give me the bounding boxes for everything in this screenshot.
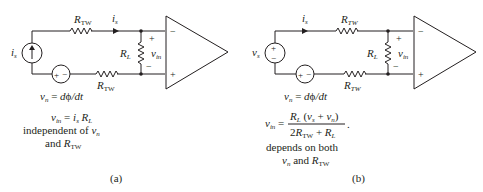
svg-text:vn = dϕ/dt: vn = dϕ/dt bbox=[40, 90, 84, 104]
svg-text:vin: vin bbox=[151, 47, 162, 61]
svg-text:vin = is RL: vin = is RL bbox=[51, 111, 92, 125]
svg-text:+: + bbox=[54, 70, 59, 80]
svg-text:independent of vn: independent of vn bbox=[23, 124, 100, 138]
svg-text:+: + bbox=[149, 33, 155, 44]
resistor-rtw-top-a bbox=[70, 28, 92, 34]
svg-text:.: . bbox=[347, 118, 350, 130]
panel-a-label: (a) bbox=[110, 172, 123, 185]
svg-text:+: + bbox=[418, 69, 424, 80]
svg-text:−: − bbox=[418, 26, 424, 37]
svg-text:RTW: RTW bbox=[96, 79, 115, 93]
svg-text:vs: vs bbox=[252, 46, 260, 60]
svg-text:−: − bbox=[271, 53, 276, 63]
resistor-rl-b bbox=[385, 42, 391, 64]
svg-text:−: − bbox=[146, 61, 152, 72]
resistor-rl-a bbox=[138, 42, 144, 64]
panel-b-circuit: + − + − − + RTW is vs RL + vin − RTW vn … bbox=[252, 12, 476, 185]
svg-text:RTW: RTW bbox=[343, 79, 362, 93]
svg-text:RL: RL bbox=[366, 47, 378, 61]
svg-text:+: + bbox=[271, 43, 276, 53]
current-arrow-b bbox=[302, 28, 308, 34]
svg-text:depends on both: depends on both bbox=[266, 141, 339, 153]
resistor-rtw-top-b bbox=[336, 28, 358, 34]
svg-text:+: + bbox=[170, 69, 176, 80]
svg-text:−: − bbox=[170, 26, 176, 37]
svg-text:−: − bbox=[393, 61, 399, 72]
svg-text:RL (vs + vn): RL (vs + vn) bbox=[289, 110, 339, 124]
svg-text:+: + bbox=[298, 70, 303, 80]
svg-text:2RTW + RL: 2RTW + RL bbox=[290, 126, 336, 140]
svg-text:is: is bbox=[112, 12, 118, 26]
resistor-rtw-bot-b bbox=[344, 71, 366, 77]
current-arrow-a bbox=[113, 28, 119, 34]
svg-text:RL: RL bbox=[119, 47, 131, 61]
circuit-figure: + − − + RTW is is RL + vin − RTW vn = dϕ… bbox=[0, 0, 483, 192]
svg-text:vin =: vin = bbox=[265, 117, 284, 131]
panel-a-circuit: + − − + RTW is is RL + vin − RTW vn = dϕ… bbox=[11, 12, 228, 185]
panel-b-label: (b) bbox=[352, 172, 365, 185]
svg-text:vin: vin bbox=[398, 47, 409, 61]
svg-text:+: + bbox=[396, 33, 402, 44]
resistor-rtw-bot-a bbox=[96, 71, 118, 77]
svg-text:is: is bbox=[302, 12, 308, 26]
svg-text:−: − bbox=[306, 69, 311, 79]
svg-text:is: is bbox=[11, 46, 17, 60]
svg-text:vn = dϕ/dt: vn = dϕ/dt bbox=[284, 90, 328, 104]
svg-text:and RTW: and RTW bbox=[45, 137, 82, 151]
svg-text:vn and RTW: vn and RTW bbox=[282, 154, 330, 168]
svg-text:RTW: RTW bbox=[340, 13, 359, 27]
svg-text:RTW: RTW bbox=[73, 13, 92, 27]
svg-text:−: − bbox=[62, 69, 67, 79]
